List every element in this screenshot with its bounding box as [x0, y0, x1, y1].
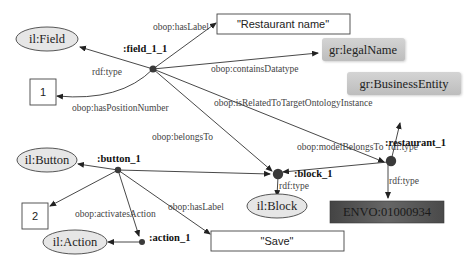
class-node-button: il:Button	[17, 148, 77, 172]
edge-button-type	[78, 164, 118, 170]
edge-label-activates-action: obop:activatesAction	[75, 209, 156, 219]
class-label-action: il:Action	[53, 235, 98, 249]
instance-dot-restaurant	[386, 156, 396, 166]
edge-label-contains-datatype: obop:containsDatatype	[211, 64, 299, 74]
instance-dot-field	[150, 66, 157, 73]
edge-label-belongs-to: obop:belongsTo	[152, 132, 213, 142]
edge-label-is-related: obop:isRelatedToTargetOntologyInstance	[214, 98, 372, 108]
edge-label-model-belongs-to: obop:modelBelongsTo	[297, 142, 384, 152]
instance-dot-button	[115, 167, 121, 173]
literal-restaurant-name-text: "Restaurant name"	[237, 18, 329, 30]
instance-label-field: :field_1_1	[123, 43, 167, 54]
ontology-envo: ENVO:01000934	[330, 201, 444, 223]
rdf-graph-diagram: obop:hasLabel rdf:type obop:containsData…	[0, 0, 476, 269]
class-node-field: il:Field	[16, 27, 78, 51]
instance-label-action: :action_1	[149, 232, 190, 243]
edge-label-position-number: obop:hasPositionNumber	[72, 103, 169, 113]
literal-position-1-text: 1	[40, 86, 46, 98]
edge-field-belongs	[153, 69, 272, 171]
instance-dot-block	[273, 169, 283, 179]
instance-dot-action	[139, 239, 145, 245]
edge-label-block-type: rdf:type	[279, 181, 309, 191]
class-label-block: il:Block	[257, 199, 298, 213]
literal-save: "Save"	[211, 231, 344, 251]
edge-button-position	[50, 170, 118, 206]
class-node-block: il:Block	[247, 194, 307, 218]
instance-label-block: :block_1	[294, 168, 333, 179]
ontology-legal-name: gr:legalName	[322, 38, 406, 62]
edge-label-restaurant-type-envo: rdf:type	[389, 176, 419, 186]
edge-block-type	[277, 177, 278, 196]
instance-label-button: :button_1	[97, 153, 141, 164]
literal-position-2: 2	[22, 203, 48, 229]
edge-button-activates	[118, 170, 139, 236]
edge-label-field-type: rdf:type	[92, 67, 122, 77]
literal-save-text: "Save"	[261, 235, 294, 247]
ontology-business-entity: gr:BusinessEntity	[347, 72, 462, 96]
class-label-field: il:Field	[29, 32, 66, 46]
class-label-button: il:Button	[25, 153, 70, 167]
instance-label-restaurant: :restaurant_1	[385, 137, 446, 148]
edge-label-has-label: obop:hasLabel	[153, 22, 209, 32]
edge-label-button-has-label: obop:hasLabel	[168, 202, 224, 212]
class-node-action: il:Action	[43, 230, 107, 254]
ontology-envo-text: ENVO:01000934	[343, 205, 432, 219]
literal-restaurant-name: "Restaurant name"	[217, 14, 350, 34]
ontology-legal-name-text: gr:legalName	[329, 43, 397, 57]
literal-position-2-text: 2	[32, 210, 38, 222]
ontology-business-entity-text: gr:BusinessEntity	[360, 77, 450, 91]
edge-button-belongs	[118, 170, 270, 174]
literal-position-1: 1	[30, 79, 56, 105]
